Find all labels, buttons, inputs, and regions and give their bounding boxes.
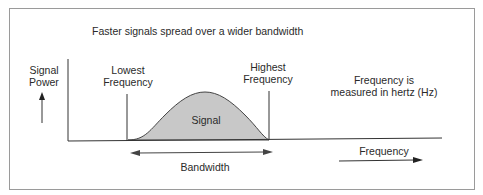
- bandwidth-arrow: [137, 152, 265, 153]
- signal-label: Signal: [186, 114, 226, 126]
- bandwidth-arrowhead-right: [263, 149, 273, 155]
- frequency-note: Frequency is measured in hertz (Hz): [329, 74, 439, 98]
- frequency-arrow: [339, 160, 415, 161]
- highest-frequency-label: Highest Frequency: [240, 61, 296, 85]
- bandwidth-arrowhead-left: [130, 150, 140, 156]
- x-axis-label: Frequency: [354, 145, 414, 157]
- signal-power-arrowhead: [39, 92, 45, 100]
- y-axis-label: Signal Power: [27, 64, 61, 88]
- bandwidth-label: Bandwidth: [175, 161, 235, 173]
- frequency-arrowhead: [413, 157, 423, 163]
- lowest-frequency-label: Lowest Frequency: [100, 64, 156, 88]
- diagram-title: Faster signals spread over a wider bandw…: [92, 25, 303, 37]
